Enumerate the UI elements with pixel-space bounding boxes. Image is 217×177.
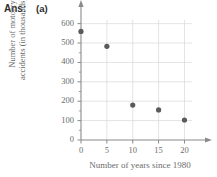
- figure-container: Ans: (a) Number of motorcycle accidents …: [0, 0, 217, 177]
- x-axis-tick-label: 5: [98, 145, 116, 155]
- x-axis-tick-label: 10: [124, 145, 142, 155]
- x-axis-tick-label: 0: [72, 145, 90, 155]
- x-axis-tick-label: 15: [150, 145, 168, 155]
- data-point: [156, 107, 161, 112]
- x-axis-arrow-icon: [205, 137, 212, 142]
- data-point: [182, 117, 187, 122]
- y-axis-tick-label: 200: [50, 95, 74, 105]
- x-axis-tick-label: 20: [175, 145, 193, 155]
- y-axis-tick-label: 300: [50, 76, 74, 86]
- data-point: [78, 29, 83, 34]
- data-point: [130, 102, 135, 107]
- y-axis-tick-label: 400: [50, 56, 74, 66]
- x-axis-label: Number of years since 1980: [60, 160, 217, 170]
- y-axis-tick-label: 0: [50, 134, 74, 144]
- data-point: [104, 44, 109, 49]
- y-axis-tick-label: 500: [50, 37, 74, 47]
- y-axis-label-line2: accidents (in thousands): [18, 0, 32, 99]
- y-axis-tick-label: 100: [50, 115, 74, 125]
- y-axis-arrow-icon: [78, 0, 83, 7]
- y-axis-tick-label: 600: [50, 18, 74, 28]
